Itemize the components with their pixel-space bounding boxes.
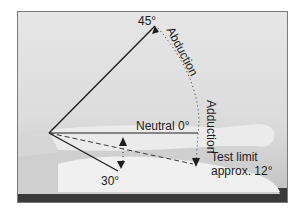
abduction-line bbox=[49, 26, 155, 133]
range-of-motion-figure: 45° Abduction Adduction Neutral 0° Test … bbox=[17, 11, 288, 203]
label-45-degrees: 45° bbox=[138, 15, 156, 27]
label-test-limit-approx: approx. 12° bbox=[211, 165, 273, 177]
label-test-limit: Test limit bbox=[211, 151, 258, 163]
label-neutral: Neutral 0° bbox=[136, 120, 190, 132]
label-30-degrees: 30° bbox=[101, 175, 119, 187]
label-adduction: Adduction bbox=[205, 100, 217, 153]
